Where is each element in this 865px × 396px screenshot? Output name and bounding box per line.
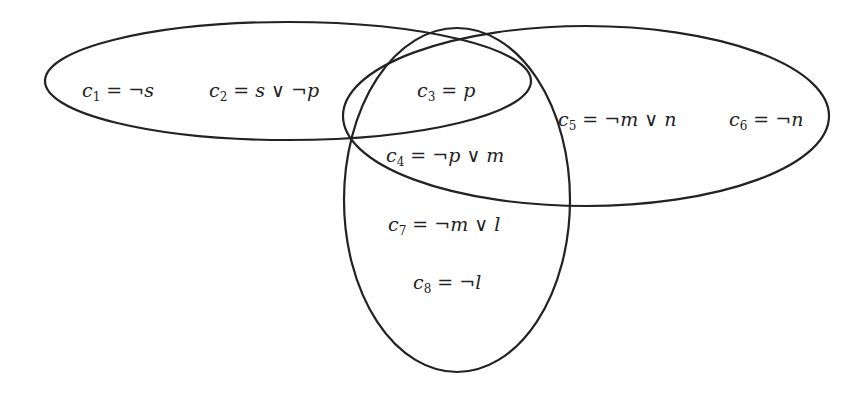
clause-label-c6: c6 = ¬n — [729, 110, 803, 132]
clause-var: c — [417, 79, 428, 101]
clause-expr: = ¬m ∨ n — [582, 108, 676, 130]
clause-label-c3: c3 = p — [417, 81, 475, 103]
clause-expr: = ¬m ∨ l — [412, 213, 500, 235]
clause-sub: 7 — [399, 224, 407, 238]
clause-label-c7: c7 = ¬m ∨ l — [388, 215, 500, 237]
clause-expr: = ¬s — [106, 79, 154, 101]
clause-sub: 1 — [93, 90, 101, 104]
clause-expr: = ¬p ∨ m — [410, 144, 504, 166]
venn-diagram — [0, 0, 865, 396]
clause-expr: = ¬n — [753, 108, 803, 130]
clause-var: c — [558, 108, 569, 130]
clause-sub: 4 — [397, 155, 405, 169]
clause-expr: = s ∨ ¬p — [233, 79, 319, 101]
clause-sub: 2 — [220, 90, 228, 104]
clause-expr: = ¬l — [437, 271, 481, 293]
clause-var: c — [388, 213, 399, 235]
clause-var: c — [729, 108, 740, 130]
clause-label-c2: c2 = s ∨ ¬p — [209, 81, 319, 103]
clause-label-c8: c8 = ¬l — [413, 273, 481, 295]
clause-sub: 3 — [428, 90, 436, 104]
clause-var: c — [386, 144, 397, 166]
clause-label-c4: c4 = ¬p ∨ m — [386, 146, 504, 168]
clause-var: c — [209, 79, 220, 101]
clause-sub: 5 — [569, 119, 577, 133]
clause-label-c1: c1 = ¬s — [82, 81, 154, 103]
clause-var: c — [82, 79, 93, 101]
clause-var: c — [413, 271, 424, 293]
clause-sub: 8 — [424, 282, 432, 296]
clause-expr: = p — [441, 79, 475, 101]
clause-label-c5: c5 = ¬m ∨ n — [558, 110, 676, 132]
clause-sub: 6 — [740, 119, 748, 133]
